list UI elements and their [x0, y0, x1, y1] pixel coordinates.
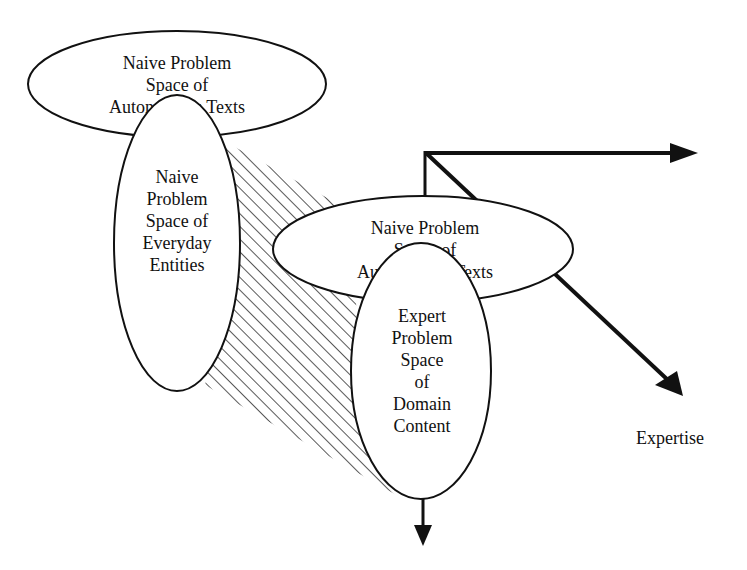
node-label-line: Naive Problem — [371, 218, 479, 238]
node-label-line: Entities — [150, 255, 205, 275]
node-label-line: Naive — [156, 167, 199, 187]
node-label-line: Problem — [392, 328, 453, 348]
downward-axis-arrow — [414, 495, 432, 546]
node-label-line: Space of — [146, 75, 208, 95]
ellipse-expert-domain-content: Expert Problem Space of Domain Content — [351, 243, 491, 499]
expertise-axis-label: Expertise — [636, 428, 704, 448]
node-label-line: Problem — [147, 189, 208, 209]
node-label-line: Expert — [398, 306, 446, 326]
node-label-line: Naive Problem — [123, 53, 231, 73]
horizontal-axis-arrow — [425, 143, 698, 163]
node-label-line: Space of — [146, 211, 208, 231]
node-label-line: Domain — [393, 394, 451, 414]
node-label-line: Space — [401, 350, 444, 370]
ellipse-naive-everyday-entities: Naive Problem Space of Everyday Entities — [114, 95, 240, 391]
node-label-line: of — [415, 372, 430, 392]
node-label-line: Everyday — [143, 233, 212, 253]
node-label-line: Content — [394, 416, 451, 436]
problem-space-diagram: Naive Problem Space of Autonomous Texts … — [0, 0, 747, 570]
